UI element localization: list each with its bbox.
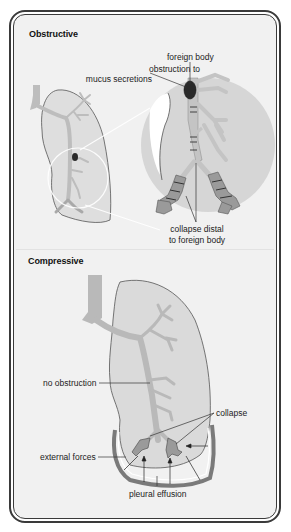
label-foreign-body: foreign body [167,52,214,62]
label-no-obstruction: no obstruction [43,378,96,388]
label-external-forces: external forces [40,452,96,462]
label-obstruction-line2: mucus secretions [80,74,152,84]
label-collapse: collapse [216,408,247,418]
obstructive-magnified-view [141,75,275,214]
obstructive-overview-lung [30,85,160,230]
label-obstruction-line1: obstruction to [96,64,200,74]
section-divider [16,249,274,250]
label-pleural-effusion: pleural effusion [129,489,187,499]
section-title-compressive: Compressive [28,256,83,266]
label-collapse-distal-line1: collapse distal [150,224,244,234]
label-collapse-distal-line2: to foreign body [150,235,244,245]
foreign-body-small [72,153,78,161]
compressive-lung [82,275,214,486]
section-title-obstructive: Obstructive [29,29,78,39]
